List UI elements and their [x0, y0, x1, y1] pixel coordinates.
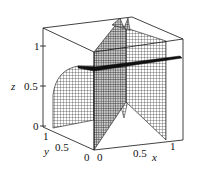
- curved-surface: [53, 66, 94, 128]
- y-tick-1: 1: [43, 130, 49, 142]
- z-tick-0: 0: [33, 120, 39, 132]
- x-axis-label: x: [151, 151, 157, 163]
- y-tick-0: 0: [84, 151, 90, 163]
- x-tick-1: 1: [170, 140, 176, 152]
- vertical-plane-yz: [94, 22, 126, 150]
- z-tick-1: 1: [34, 40, 40, 52]
- y-axis-label: y: [43, 145, 49, 157]
- z-axis-label: z: [10, 80, 16, 92]
- x-tick-0.5: 0.5: [133, 147, 147, 159]
- plot-3d: 1 0.5 z 0 1 0.5 y 0 0 0.5 x 1: [0, 0, 197, 172]
- z-tick-0.5: 0.5: [24, 80, 38, 92]
- y-tick-0.5: 0.5: [55, 141, 69, 153]
- x-tick-0: 0: [97, 151, 103, 163]
